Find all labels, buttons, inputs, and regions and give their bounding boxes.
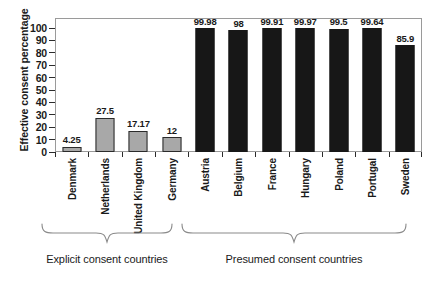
x-axis-tick-mark bbox=[421, 152, 422, 157]
y-axis-tick-label: 100 bbox=[30, 22, 47, 34]
bar-value-label: 17.17 bbox=[127, 118, 150, 129]
x-axis-label-slot: France bbox=[255, 158, 288, 228]
x-axis-label-slot: Sweden bbox=[389, 158, 422, 228]
x-axis-tick-mark bbox=[289, 152, 290, 157]
bar-slot: 99.64 bbox=[355, 18, 388, 152]
bar-netherlands[interactable] bbox=[96, 118, 115, 152]
x-axis-tick-mark bbox=[255, 152, 256, 157]
y-axis-tick-label: 60 bbox=[36, 72, 47, 84]
bar-slot: 85.9 bbox=[389, 18, 422, 152]
bar-sweden[interactable] bbox=[396, 45, 415, 152]
x-axis-label-austria: Austria bbox=[200, 158, 211, 192]
y-axis-tick-label: 40 bbox=[36, 96, 47, 108]
bar-slot: 99.98 bbox=[188, 18, 221, 152]
bar-slot: 99.91 bbox=[255, 18, 288, 152]
bars-layer: 4.2527.517.171299.989899.9199.9799.599.6… bbox=[55, 18, 422, 152]
bar-portugal[interactable] bbox=[362, 28, 381, 152]
bar-france[interactable] bbox=[262, 28, 281, 152]
presumed-group-brace bbox=[182, 224, 406, 242]
x-axis-label-denmark: Denmark bbox=[66, 158, 77, 200]
bar-germany[interactable] bbox=[162, 137, 181, 152]
bar-value-label: 99.97 bbox=[294, 16, 317, 27]
x-axis-label-slot: United Kingdom bbox=[122, 158, 155, 228]
x-axis-label-slot: Austria bbox=[188, 158, 221, 228]
x-axis-label-sweden: Sweden bbox=[400, 158, 411, 195]
y-axis-tick-label: 10 bbox=[36, 134, 47, 146]
group-label-presumed: Presumed consent countries bbox=[204, 253, 384, 265]
y-axis-tick-label: 80 bbox=[36, 47, 47, 59]
x-axis-tick-mark bbox=[55, 152, 56, 157]
group-label-explicit: Explicit consent countries bbox=[17, 253, 197, 265]
y-axis-tick-label: 0 bbox=[41, 146, 47, 158]
bar-value-label: 27.5 bbox=[96, 105, 114, 116]
bar-value-label: 99.98 bbox=[194, 16, 217, 27]
bar-value-label: 99.5 bbox=[330, 16, 348, 27]
x-axis-label-slot: Denmark bbox=[55, 158, 88, 228]
bar-slot: 98 bbox=[222, 18, 255, 152]
x-axis-tick-mark bbox=[122, 152, 123, 157]
bar-value-label: 99.91 bbox=[260, 16, 283, 27]
x-axis-tick-mark bbox=[389, 152, 390, 157]
bar-value-label: 99.64 bbox=[361, 16, 384, 27]
y-axis-tick-label: 30 bbox=[36, 109, 47, 121]
y-axis-tick-label: 90 bbox=[36, 34, 47, 46]
bar-slot: 12 bbox=[155, 18, 188, 152]
y-axis-tick-label: 50 bbox=[36, 84, 47, 96]
x-axis-label-belgium: Belgium bbox=[233, 158, 244, 197]
x-axis-label-slot: Germany bbox=[155, 158, 188, 228]
explicit-group-brace bbox=[42, 224, 172, 242]
bar-austria[interactable] bbox=[196, 28, 215, 152]
x-axis-tick-mark bbox=[322, 152, 323, 157]
x-axis-label-france: France bbox=[266, 158, 277, 190]
bar-hungary[interactable] bbox=[296, 28, 315, 152]
bar-united-kingdom[interactable] bbox=[129, 131, 148, 152]
bar-value-label: 85.9 bbox=[396, 33, 414, 44]
y-axis-tick-label: 70 bbox=[36, 59, 47, 71]
bar-slot: 17.17 bbox=[122, 18, 155, 152]
x-axis-label-group: DenmarkNetherlandsUnited KingdomGermanyA… bbox=[55, 158, 422, 228]
x-axis-label-slot: Netherlands bbox=[88, 158, 121, 228]
x-axis-label-germany: Germany bbox=[166, 158, 177, 201]
bar-value-label: 98 bbox=[233, 18, 243, 29]
x-axis-label-slot: Portugal bbox=[355, 158, 388, 228]
bar-slot: 99.97 bbox=[289, 18, 322, 152]
bar-value-label: 12 bbox=[167, 125, 177, 136]
x-axis-label-hungary: Hungary bbox=[300, 158, 311, 198]
y-axis-tick-group: 1009080706050403020100 bbox=[0, 0, 55, 160]
x-axis-label-netherlands: Netherlands bbox=[100, 158, 111, 215]
x-axis-label-slot: Hungary bbox=[289, 158, 322, 228]
x-axis-label-poland: Poland bbox=[333, 158, 344, 191]
bar-slot: 27.5 bbox=[88, 18, 121, 152]
x-axis-label-slot: Poland bbox=[322, 158, 355, 228]
bar-belgium[interactable] bbox=[229, 30, 248, 152]
x-axis-tick-mark bbox=[188, 152, 189, 157]
bar-value-label: 4.25 bbox=[63, 134, 81, 145]
bar-slot: 4.25 bbox=[55, 18, 88, 152]
x-axis-label-slot: Belgium bbox=[222, 158, 255, 228]
x-axis-tick-mark bbox=[355, 152, 356, 157]
bar-poland[interactable] bbox=[329, 29, 348, 152]
x-axis-tick-mark bbox=[222, 152, 223, 157]
bar-slot: 99.5 bbox=[322, 18, 355, 152]
y-axis-tick-label: 20 bbox=[36, 121, 47, 133]
group-brace-group bbox=[0, 222, 434, 248]
x-axis-tick-mark bbox=[88, 152, 89, 157]
x-axis-tick-mark bbox=[155, 152, 156, 157]
x-axis-label-portugal: Portugal bbox=[366, 158, 377, 198]
